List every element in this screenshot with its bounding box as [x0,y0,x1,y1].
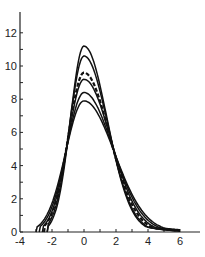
y-tick-label: 6 [11,126,17,138]
x-tick-label: 6 [177,235,183,247]
curve-solid [42,79,180,232]
axes [20,12,200,232]
x-tick-label: 0 [81,235,87,247]
chart: 024681012-4-20246 [0,0,205,257]
x-tick-label: 4 [145,235,151,247]
y-tick-label: 2 [11,193,17,205]
y-tick-label: 12 [5,27,17,39]
y-tick-label: 4 [11,160,17,172]
y-tick-label: 10 [5,60,17,72]
curve-solid [39,93,180,232]
curve-dashed [44,73,180,232]
x-tick-label: -4 [15,235,25,247]
tick-labels: 024681012-4-20246 [5,27,183,247]
axis-ticks [20,33,180,232]
x-tick-label: 2 [113,235,119,247]
x-tick-label: -2 [47,235,57,247]
plot-curves [36,46,180,232]
y-tick-label: 8 [11,93,17,105]
